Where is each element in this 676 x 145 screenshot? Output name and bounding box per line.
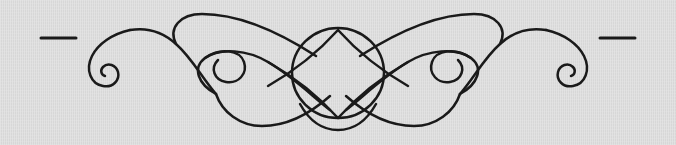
ornament-canvas: Ornamental Flourish Divider A symmetric … — [0, 0, 676, 145]
right-end-spiral — [546, 30, 587, 86]
center-diagonal-descending — [268, 62, 408, 118]
right-outer-arc — [360, 14, 502, 56]
ornamental-flourish-artwork: Ornamental Flourish Divider A symmetric … — [0, 0, 676, 145]
left-outer-arc — [174, 14, 316, 56]
center-oval — [292, 28, 384, 118]
left-end-spiral — [89, 30, 130, 86]
flourish-stroke-group — [41, 14, 635, 130]
